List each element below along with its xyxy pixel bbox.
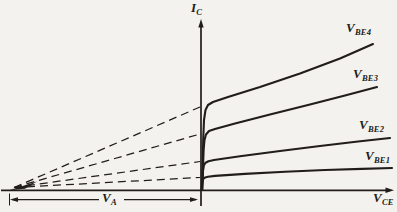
- x-axis-label-sub: CE: [382, 197, 394, 207]
- plot-canvas: [0, 0, 397, 212]
- curve-label-vbe4-sub: BE4: [355, 27, 372, 37]
- curve-label-vbe3: VBE3: [353, 67, 378, 83]
- curve-label-vbe1: VBE1: [365, 149, 390, 165]
- curve-label-vbe2: VBE2: [359, 118, 384, 134]
- curve-label-vbe1-sub: BE1: [374, 155, 391, 165]
- early-voltage-label-base: V: [102, 190, 111, 205]
- dashed-extrapolation-V_BE2: [14, 162, 200, 188]
- curve-V_BE1: [202, 168, 392, 190]
- y-axis-label: IC: [191, 1, 202, 17]
- early-voltage-label: VA: [102, 191, 117, 207]
- y-axis-label-sub: C: [196, 7, 202, 17]
- dashed-extrapolation-V_BE4: [14, 107, 200, 188]
- arrowhead-up: [198, 19, 203, 28]
- curve-label-vbe3-sub: BE3: [362, 73, 379, 83]
- curve-V_BE4: [202, 44, 373, 190]
- arrowhead-left: [10, 197, 18, 202]
- curve-label-vbe3-base: V: [353, 66, 362, 81]
- curve-label-vbe2-base: V: [359, 117, 368, 132]
- x-axis-label: VCE: [373, 191, 394, 207]
- curve-label-vbe2-sub: BE2: [368, 124, 385, 134]
- curve-V_BE2: [202, 138, 390, 190]
- curve-label-vbe1-base: V: [365, 148, 374, 163]
- figure-root: IC VCE VA VBE4 VBE3 VBE2 VBE1: [0, 0, 397, 212]
- x-axis-label-base: V: [373, 190, 382, 205]
- early-voltage-label-sub: A: [111, 197, 117, 207]
- curve-label-vbe4: VBE4: [346, 21, 371, 37]
- curve-label-vbe4-base: V: [346, 20, 355, 35]
- arrowhead-right: [190, 197, 198, 202]
